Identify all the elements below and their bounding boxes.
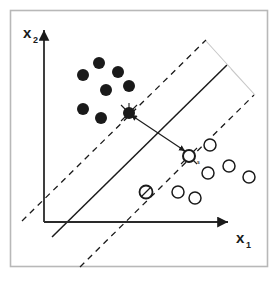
x-axis-label: x xyxy=(236,229,245,246)
hollow-data-point xyxy=(223,160,235,172)
filled-data-point xyxy=(77,103,89,115)
filled-data-point xyxy=(112,66,124,78)
hollow-data-point xyxy=(202,167,214,179)
hollow-data-point xyxy=(172,186,184,198)
support-vector-hollow xyxy=(181,148,197,164)
filled-data-point xyxy=(93,57,105,69)
x-axis-label-subscript: 1 xyxy=(246,240,251,250)
filled-data-point xyxy=(100,84,112,96)
figure-frame xyxy=(11,11,268,267)
svm-margin-figure: x 2 x 1 s xyxy=(0,0,279,288)
y-axis-label-subscript: 2 xyxy=(33,35,38,45)
hollow-data-point xyxy=(189,192,201,204)
hollow-data-point xyxy=(243,171,255,183)
svm-diagram-canvas: x 2 x 1 s xyxy=(0,0,279,288)
filled-data-point xyxy=(77,69,89,81)
support-vector-subscript: s xyxy=(197,159,200,165)
filled-data-point xyxy=(95,112,107,124)
support-vector-hollow-lower xyxy=(140,186,153,199)
y-axis-label: x xyxy=(23,24,32,41)
hollow-data-point xyxy=(204,139,216,151)
support-vector-filled-marker xyxy=(123,107,135,119)
support-vector-hollow-marker xyxy=(183,150,195,162)
filled-data-point xyxy=(123,80,135,92)
